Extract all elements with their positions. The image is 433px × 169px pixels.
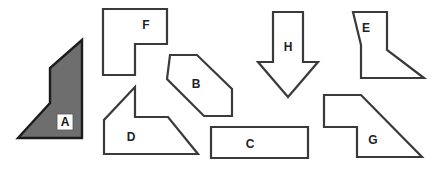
shape-g[interactable]: G (324, 95, 422, 157)
shape-h-outline (258, 12, 318, 97)
shape-e[interactable]: E (353, 12, 424, 78)
shape-b-label: B (192, 77, 201, 91)
shape-g-label: G (368, 133, 377, 147)
shape-f-outline (103, 9, 167, 75)
shapes-canvas: AFBDCHEG (0, 0, 433, 169)
shape-e-label: E (362, 21, 370, 35)
shape-a[interactable]: A (18, 40, 82, 138)
shape-c-outline (211, 127, 308, 158)
shape-g-outline (324, 95, 422, 157)
shape-c[interactable]: C (211, 127, 308, 158)
shape-f-label: F (142, 18, 149, 32)
shape-b[interactable]: B (167, 55, 232, 116)
shapes-diagram: AFBDCHEG (0, 0, 433, 169)
shape-h[interactable]: H (258, 12, 318, 97)
shape-h-label: H (284, 40, 293, 54)
shape-f[interactable]: F (103, 9, 167, 75)
shape-d-label: D (127, 130, 136, 144)
shape-c-label: C (246, 137, 255, 151)
shape-a-label: A (61, 115, 70, 129)
